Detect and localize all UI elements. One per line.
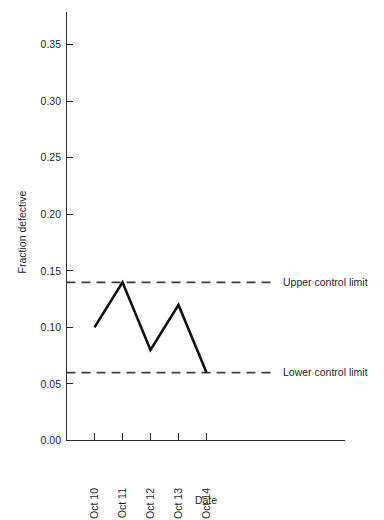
- y-tick-label-5: 0.25: [41, 151, 62, 163]
- y-tick-label-0: 0.00: [41, 434, 62, 446]
- y-tick-label-6: 0.30: [41, 95, 62, 107]
- y-tick-label-4: 0.20: [41, 208, 62, 220]
- y-tick-label-3: 0.15: [41, 265, 62, 277]
- x-tick-label-3: Oct 13: [172, 488, 184, 519]
- x-tick-label-0: Oct 10: [88, 488, 100, 519]
- y-tick-label-1: 0.05: [41, 378, 62, 390]
- x-tick-label-2: Oct 12: [144, 488, 156, 519]
- chart-canvas: 0.00 0.05 0.10 0.15 0.20 0.25 0.30 0.35 …: [0, 0, 384, 520]
- control-chart: 0.00 0.05 0.10 0.15 0.20 0.25 0.30 0.35 …: [0, 0, 384, 520]
- x-tick-label-1: Oct 11: [116, 488, 128, 518]
- upper-control-limit-label: Upper control limit: [283, 276, 368, 288]
- lower-control-limit-label: Lower control limit: [283, 366, 368, 378]
- y-axis-title: Fraction defective: [16, 190, 28, 273]
- y-tick-label-7: 0.35: [41, 38, 62, 50]
- x-axis-title: Date: [195, 494, 217, 506]
- y-tick-label-2: 0.10: [41, 321, 62, 333]
- fraction-defective-series: [95, 282, 207, 372]
